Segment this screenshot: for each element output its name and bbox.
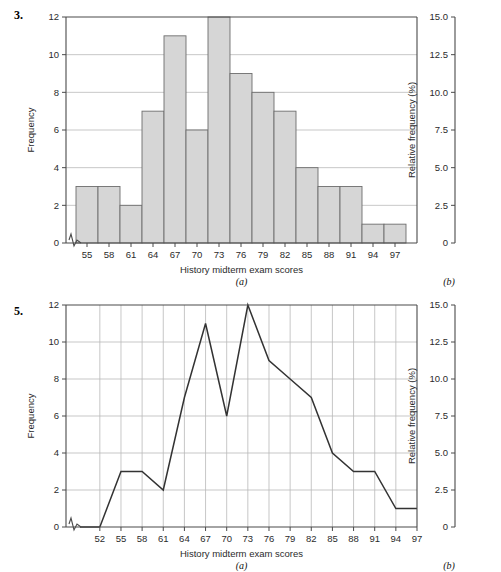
- y2-tick-label: 0: [443, 237, 448, 248]
- x-tick-label: 58: [104, 249, 115, 260]
- bar: [208, 17, 230, 243]
- bar: [76, 187, 98, 244]
- y2-tick-label: 0: [443, 521, 448, 532]
- y2-tick-label: 5.0: [435, 447, 448, 458]
- x-axis-title: History midterm exam scores: [180, 548, 303, 559]
- y2-tick-label: 2.5: [435, 484, 448, 495]
- x-tick-label: 73: [214, 249, 225, 260]
- y-tick-label: 10: [48, 336, 59, 347]
- bar: [186, 130, 208, 243]
- y2-tick-label: 7.5: [435, 410, 448, 421]
- y-tick-label: 4: [54, 447, 59, 458]
- x-tick-label: 67: [200, 533, 211, 544]
- figure-3: 3. 5558616467707376798285889194970246810…: [0, 0, 501, 288]
- y-axis-title: Frequency: [25, 393, 36, 438]
- x-tick-label: 85: [327, 533, 338, 544]
- x-tick-label: 91: [346, 249, 357, 260]
- x-axis: 52555861646770737679828588919497: [95, 527, 423, 544]
- y-tick-label: 10: [48, 49, 59, 60]
- bar: [340, 187, 362, 244]
- x-tick-label: 55: [116, 533, 127, 544]
- y2-tick-label: 2.5: [435, 200, 448, 211]
- x-tick-label: 94: [368, 249, 379, 260]
- x-tick-label: 76: [236, 249, 247, 260]
- panel-b-label: (b): [443, 560, 455, 572]
- bar: [120, 205, 142, 243]
- x-tick-label: 94: [391, 533, 402, 544]
- x-tick-label: 88: [348, 533, 359, 544]
- y-axis: 024681012: [48, 11, 66, 248]
- y-tick-label: 0: [54, 237, 59, 248]
- x-tick-label: 64: [179, 533, 190, 544]
- y-tick-label: 2: [54, 484, 59, 495]
- x-tick-label: 79: [258, 249, 269, 260]
- x-tick-label: 61: [126, 249, 137, 260]
- y-axis-break-icon: [69, 518, 81, 530]
- y-tick-label: 0: [54, 521, 59, 532]
- y2-tick-label: 7.5: [435, 124, 448, 135]
- x-tick-label: 58: [137, 533, 148, 544]
- x-tick-label: 91: [369, 533, 380, 544]
- bar: [296, 168, 318, 243]
- figure-5: 5. 5255586164677073767982858891949702468…: [0, 288, 501, 572]
- bar: [142, 111, 164, 243]
- y-tick-label: 8: [54, 87, 59, 98]
- x-tick-label: 79: [285, 533, 296, 544]
- y-tick-label: 12: [48, 299, 59, 310]
- bar: [230, 74, 252, 244]
- x-axis: 555861646770737679828588919497: [82, 243, 401, 260]
- x-tick-label: 64: [148, 249, 159, 260]
- y2-axis-title: Relative frequency (%): [406, 82, 417, 178]
- panel-a-label: (a): [236, 560, 248, 572]
- y2-tick-label: 15.0: [430, 11, 449, 22]
- x-tick-label: 55: [82, 249, 93, 260]
- x-tick-label: 52: [95, 533, 106, 544]
- bar: [274, 111, 296, 243]
- y2-tick-label: 5.0: [435, 162, 448, 173]
- y2-tick-label: 10.0: [430, 87, 449, 98]
- y-tick-label: 8: [54, 373, 59, 384]
- x-tick-label: 70: [221, 533, 232, 544]
- relative-frequency-axis: 02.55.07.510.012.515.0Relative frequency…: [406, 299, 455, 532]
- y-tick-label: 2: [54, 200, 59, 211]
- y-tick-label: 6: [54, 124, 59, 135]
- x-tick-label: 82: [306, 533, 317, 544]
- x-tick-label: 70: [192, 249, 203, 260]
- y-tick-label: 6: [54, 410, 59, 421]
- bar: [164, 36, 186, 243]
- y-axis-title: Frequency: [25, 107, 36, 152]
- bar: [98, 187, 120, 244]
- y2-tick-label: 15.0: [430, 299, 449, 310]
- x-tick-label: 61: [158, 533, 169, 544]
- x-tick-label: 85: [302, 249, 313, 260]
- x-tick-label: 82: [280, 249, 291, 260]
- y2-tick-label: 10.0: [430, 373, 449, 384]
- bar: [384, 224, 406, 243]
- y-tick-label: 12: [48, 11, 59, 22]
- bar: [362, 224, 384, 243]
- bar: [318, 187, 340, 244]
- y-axis: 024681012: [48, 299, 66, 532]
- panel-b-label: (b): [443, 276, 455, 288]
- x-tick-label: 97: [412, 533, 423, 544]
- x-tick-label: 73: [243, 533, 254, 544]
- chart-3-svg: 555861646770737679828588919497024681012H…: [0, 0, 501, 288]
- panel-a-label: (a): [236, 276, 248, 288]
- x-axis-title: History midterm exam scores: [180, 264, 303, 275]
- y2-tick-label: 12.5: [430, 49, 449, 60]
- x-tick-label: 76: [264, 533, 275, 544]
- x-tick-label: 97: [390, 249, 401, 260]
- bar: [252, 92, 274, 243]
- x-tick-label: 88: [324, 249, 335, 260]
- y-tick-label: 4: [54, 162, 59, 173]
- relative-frequency-axis: 02.55.07.510.012.515.0Relative frequency…: [406, 11, 455, 248]
- y2-axis-title: Relative frequency (%): [406, 368, 417, 464]
- chart-5-svg: 5255586164677073767982858891949702468101…: [0, 288, 501, 572]
- x-tick-label: 67: [170, 249, 181, 260]
- y2-tick-label: 12.5: [430, 336, 449, 347]
